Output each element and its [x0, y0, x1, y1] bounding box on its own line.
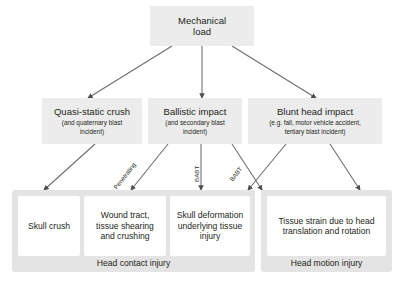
group-head-motion-injury-label: Head motion injury	[261, 258, 392, 268]
leaf-tissue-strain-line1: Tissue strain due to head	[278, 216, 374, 226]
edge-root-to-blunt-head-impact	[232, 46, 316, 98]
edge-ballistic-impact-to-wound-tract	[131, 144, 168, 190]
node-ballistic-impact-sub-line2: incident)	[183, 128, 207, 136]
leaf-wound-tract-line2: tissue shearing	[96, 221, 154, 231]
node-blunt-head-impact-title: Blunt head impact	[277, 106, 353, 118]
leaf-wound-tract-line3: and crushing	[100, 231, 149, 241]
leaf-skull-deformation-line1: Skull deformation	[177, 210, 243, 220]
edge-label-babt-center: BABT	[193, 166, 200, 182]
node-quasi-static-crush[interactable]: Quasi-static crush (and quaternary blast…	[42, 98, 142, 144]
leaf-skull-crush[interactable]: Skull crush	[18, 196, 80, 256]
node-blunt-head-impact[interactable]: Blunt head impact (e.g. fall, motor vehi…	[248, 98, 382, 144]
leaf-skull-deformation[interactable]: Skull deformation underlying tissue inju…	[170, 196, 250, 256]
leaf-wound-tract[interactable]: Wound tract, tissue shearing and crushin…	[84, 196, 166, 256]
leaf-tissue-strain-line2: translation and rotation	[283, 226, 370, 236]
node-mechanical-load-title-line1: Mechanical	[178, 15, 226, 27]
leaf-skull-deformation-line2: underlying tissue	[178, 221, 243, 231]
edge-root-to-quasi-static-crush	[88, 46, 172, 98]
node-quasi-static-crush-sub-line2: incident)	[80, 128, 104, 136]
group-head-contact-injury-label: Head contact injury	[12, 258, 255, 268]
edge-label-penetrating: Penetrating	[112, 161, 137, 190]
node-blunt-head-impact-sub-line2: tertiary blast incident)	[285, 128, 346, 136]
node-quasi-static-crush-sub-line1: (and quaternary blast	[62, 119, 122, 127]
leaf-tissue-strain[interactable]: Tissue strain due to head translation an…	[267, 196, 386, 256]
mechanical-load-diagram: Mechanical load Quasi-static crush (and …	[0, 0, 404, 291]
leaf-wound-tract-line1: Wound tract,	[101, 210, 150, 220]
node-ballistic-impact[interactable]: Ballistic impact (and secondary blast in…	[148, 98, 242, 144]
node-ballistic-impact-title: Ballistic impact	[164, 106, 227, 118]
node-mechanical-load-title-line2: load	[193, 26, 211, 38]
node-quasi-static-crush-title: Quasi-static crush	[54, 106, 130, 118]
edge-quasi-static-crush-to-skull-crush	[44, 144, 95, 190]
edge-blunt-head-impact-to-skull-deformation	[248, 144, 286, 190]
node-mechanical-load[interactable]: Mechanical load	[150, 6, 254, 46]
leaf-skull-deformation-line3: injury	[200, 231, 221, 241]
edge-label-babt-right: BABT	[228, 165, 243, 182]
node-ballistic-impact-sub-line1: (and secondary blast	[165, 119, 224, 127]
leaf-skull-crush-text: Skull crush	[28, 221, 70, 231]
node-blunt-head-impact-sub-line1: (e.g. fall, motor vehicle accident,	[269, 119, 361, 127]
edge-blunt-head-impact-to-tissue-strain	[330, 144, 360, 190]
